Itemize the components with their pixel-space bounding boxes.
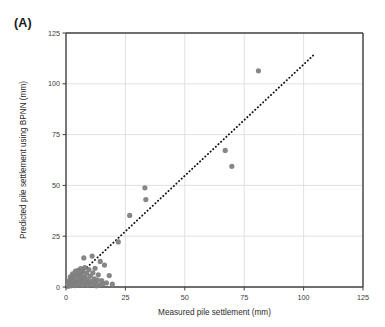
y-axis-title: Predicted pile settlement using BPNN (mm…	[19, 81, 28, 239]
y-tick-label: 25	[52, 232, 60, 241]
y-tick-label: 0	[56, 283, 60, 292]
x-tick-label: 125	[357, 293, 369, 302]
y-tick-label: 50	[52, 181, 60, 190]
x-tick-label: 100	[298, 293, 310, 302]
y-axis-ticks: 0255075100125	[48, 29, 66, 292]
y-tick-label: 125	[48, 29, 60, 38]
x-tick-label: 0	[64, 293, 68, 302]
plot-frame	[66, 33, 363, 287]
grid-lines	[66, 33, 363, 287]
scatter-chart: 0255075100125 0255075100125 Measured pil…	[0, 0, 385, 327]
y-tick-label: 100	[48, 79, 60, 88]
data-points	[65, 68, 261, 289]
y-tick-label: 75	[52, 130, 60, 139]
x-tick-label: 75	[240, 293, 248, 302]
figure-container: (A) 0255075100125 0255075100125 Measured…	[0, 0, 385, 327]
x-tick-label: 50	[181, 293, 189, 302]
x-axis-title: Measured pile settlement (mm)	[158, 308, 271, 317]
x-axis-ticks: 0255075100125	[64, 287, 369, 302]
x-tick-label: 25	[121, 293, 129, 302]
trendline	[66, 53, 315, 287]
